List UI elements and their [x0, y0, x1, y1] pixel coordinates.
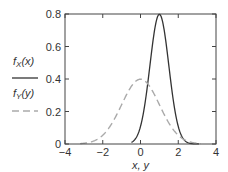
y-tick-label: 0.6: [46, 41, 61, 53]
x-tick-label: −2: [96, 146, 109, 158]
y-tick-label: 0.2: [46, 106, 61, 118]
legend-label-fy: fY(y): [13, 87, 35, 101]
y-tick-label: 0.8: [46, 8, 61, 20]
x-tick-label: 4: [213, 146, 219, 158]
y-tick-label: 0.4: [46, 73, 61, 85]
series-line-fy: [80, 79, 201, 143]
legend-label-fx: fX(x): [13, 55, 35, 69]
chart: −4−202400.20.40.60.8x, yfX(x)fY(y): [0, 0, 228, 172]
x-tick-label: 0: [137, 146, 143, 158]
x-axis-label: x, y: [131, 159, 151, 171]
y-tick-label: 0: [55, 138, 61, 150]
x-tick-label: 2: [175, 146, 181, 158]
